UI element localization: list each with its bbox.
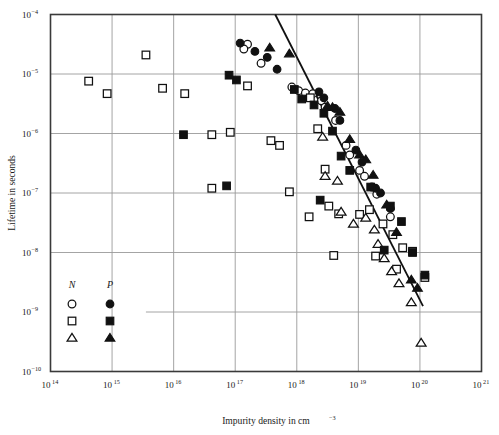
xtick-6-text: 10 — [411, 380, 421, 390]
data-point-circle-filled — [251, 48, 259, 56]
ytick-3: 10−7 — [22, 186, 38, 198]
x-axis-title: Impurity density in cm — [222, 415, 310, 426]
legend-marker-triangle-filled — [105, 333, 115, 341]
xtick-4-exponent: 18 — [298, 378, 304, 385]
data-point-square-open — [85, 77, 93, 85]
ytick-3-exponent: −7 — [32, 186, 39, 193]
data-point-square-filled — [223, 182, 231, 190]
xtick-3-text: 10 — [226, 380, 236, 390]
data-point-square-filled — [225, 71, 233, 79]
data-point-square-open — [159, 84, 167, 92]
data-point-circle-filled — [320, 94, 328, 102]
data-point-circle-filled — [273, 65, 281, 73]
legend-marker-circle-filled — [106, 300, 114, 308]
data-point-square-filled — [409, 249, 417, 257]
ytick-5: 10−9 — [22, 305, 38, 317]
data-point-square-filled — [298, 95, 306, 103]
legend-header-n: N — [68, 279, 77, 290]
data-point-triangle-open — [406, 298, 416, 306]
data-point-triangle-open — [416, 338, 426, 346]
data-point-triangle-open — [349, 219, 359, 227]
data-point-square-filled — [329, 127, 337, 135]
xtick-0-text: 10 — [42, 380, 52, 390]
data-point-square-filled — [316, 196, 324, 204]
ytick-1-exponent: −5 — [32, 67, 39, 74]
trend-line — [275, 15, 423, 307]
lifetime-vs-impurity-density-chart: 1014101510161017101810191020102110−410−5… — [0, 0, 499, 435]
ytick-4-exponent: −8 — [32, 246, 39, 253]
data-point-triangle-open — [394, 279, 404, 287]
y-axis-title: Lifetime in seconds — [6, 155, 17, 231]
data-point-square-open — [244, 82, 252, 90]
legend: NP — [67, 279, 115, 341]
ytick-0-exponent: −4 — [32, 8, 39, 15]
data-point-square-open — [208, 184, 216, 192]
gridlines — [51, 15, 482, 372]
xtick-6-exponent: 20 — [422, 378, 428, 385]
data-point-circle-filled — [336, 117, 344, 125]
data-point-square-open — [330, 252, 338, 260]
ytick-6-exponent: −10 — [32, 365, 42, 372]
data-point-square-filled — [367, 183, 375, 191]
data-point-triangle-open — [379, 254, 389, 262]
ytick-5-text: 10 — [22, 307, 32, 317]
ytick-2-exponent: −6 — [32, 127, 39, 134]
data-point-square-open — [399, 244, 407, 252]
data-point-square-open — [379, 220, 387, 228]
legend-marker-square-filled — [106, 317, 114, 325]
data-point-square-filled — [233, 76, 241, 84]
data-point-square-open — [181, 90, 189, 98]
xtick-4: 1018 — [288, 378, 305, 390]
data-point-circle-open — [387, 213, 395, 221]
xtick-6: 1020 — [411, 378, 428, 390]
data-point-circle-filled — [377, 189, 385, 197]
data-point-circle-open — [257, 59, 265, 67]
data-point-square-open — [226, 129, 234, 137]
xtick-0: 1014 — [42, 378, 59, 390]
xtick-4-text: 10 — [288, 380, 298, 390]
series-triangle-open — [318, 132, 426, 346]
ytick-2: 10−6 — [22, 127, 38, 139]
data-point-triangle-filled — [265, 43, 275, 51]
data-point-square-open — [286, 188, 294, 196]
xtick-5-exponent: 19 — [360, 378, 366, 385]
xtick-3: 1017 — [226, 378, 243, 390]
data-point-square-open — [305, 213, 313, 221]
data-point-square-filled — [421, 271, 429, 279]
xtick-1-exponent: 15 — [114, 378, 120, 385]
legend-marker-triangle-open — [67, 333, 77, 341]
ytick-0-text: 10 — [22, 10, 32, 20]
xtick-2: 1016 — [165, 378, 182, 390]
data-point-square-open — [314, 125, 322, 133]
ytick-6: 10−10 — [22, 365, 41, 377]
xtick-1: 1015 — [103, 378, 120, 390]
ytick-1-text: 10 — [22, 69, 32, 79]
legend-header-p: P — [106, 279, 113, 290]
data-point-square-filled — [320, 109, 328, 117]
data-point-square-open — [366, 206, 374, 214]
xtick-0-exponent: 14 — [52, 378, 58, 385]
xtick-2-text: 10 — [165, 380, 175, 390]
data-point-square-filled — [337, 152, 345, 160]
data-point-square-open — [103, 90, 111, 98]
ytick-5-exponent: −9 — [32, 305, 39, 312]
xtick-7-text: 10 — [473, 380, 483, 390]
xtick-1-text: 10 — [103, 380, 113, 390]
data-point-square-open — [307, 94, 315, 102]
xtick-7-exponent: 21 — [483, 378, 489, 385]
data-point-circle-filled — [263, 53, 271, 61]
x-axis-title-exponent: −3 — [329, 414, 336, 421]
data-point-square-open — [142, 51, 150, 59]
legend-marker-circle-open — [68, 300, 76, 308]
data-point-square-filled — [380, 246, 388, 254]
data-point-circle-filled — [236, 39, 244, 47]
series-triangle-filled — [265, 43, 423, 291]
data-point-triangle-open — [369, 225, 379, 233]
data-point-square-filled — [398, 218, 406, 226]
data-point-square-open — [372, 252, 380, 260]
data-point-square-open — [208, 131, 216, 139]
data-point-triangle-filled — [368, 171, 378, 179]
ytick-0: 10−4 — [22, 8, 38, 20]
xtick-2-exponent: 16 — [175, 378, 181, 385]
data-point-circle-open — [361, 172, 369, 180]
